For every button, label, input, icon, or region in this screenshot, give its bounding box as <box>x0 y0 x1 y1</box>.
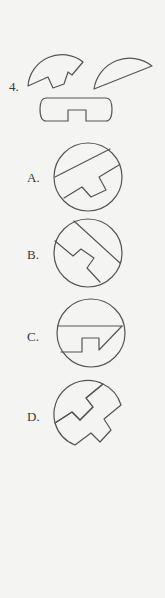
option-d-outline <box>54 380 103 423</box>
option-d-lower-outline <box>55 384 121 445</box>
option-d-figure[interactable] <box>0 0 165 598</box>
